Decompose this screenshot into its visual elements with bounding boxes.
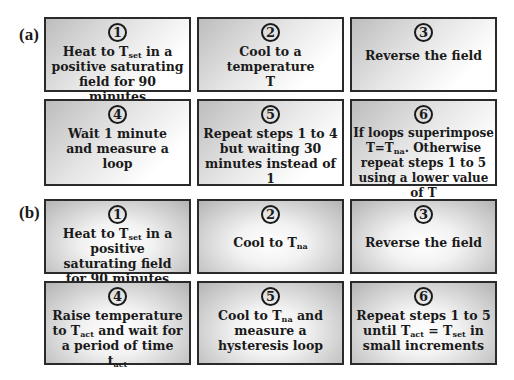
step-text: Reverse the field (361, 235, 486, 250)
step-number-badge: 6 (414, 287, 433, 306)
step-number-badge: 4 (108, 287, 127, 306)
step-number-badge: 6 (414, 105, 433, 124)
step-text: Repeat steps 1 to 5 until Tact = Tset in… (352, 308, 495, 353)
step-text: Cool to Tna and measure a hysteresis loo… (199, 308, 342, 353)
panel-a-step-2: 2 Cool to a temperature T (197, 17, 344, 92)
panel-b-step-3: 3 Reverse the field (350, 199, 497, 274)
panel-b-step-2: 2 Cool to Tna (197, 199, 344, 274)
step-number-badge: 3 (414, 23, 433, 42)
step-number-badge: 2 (261, 205, 280, 224)
step-text: If loops superimpose T=Tna. Otherwise re… (352, 126, 495, 201)
step-number-badge: 5 (261, 105, 280, 124)
panel-a-step-4: 4 Wait 1 minute and measure a loop (44, 99, 191, 186)
step-text: Heat to Tset in a positive saturating fi… (46, 44, 189, 104)
panel-a-step-3: 3 Reverse the field (350, 17, 497, 92)
step-number-badge: 3 (414, 205, 433, 224)
panel-a-step-1: 1 Heat to Tset in a positive saturating … (44, 17, 191, 92)
step-number-badge: 4 (108, 105, 127, 124)
panel-a-step-6: 6 If loops superimpose T=Tna. Otherwise … (350, 99, 497, 186)
panel-a-label: (a) (19, 25, 39, 45)
step-text: Cool to Tna (229, 235, 312, 250)
step-text: Wait 1 minute and measure a loop (46, 126, 189, 171)
step-text: Reverse the field (361, 48, 486, 63)
panel-b-step-4: 4 Raise temperature to Tact and wait for… (44, 281, 191, 365)
panel-b-step-5: 5 Cool to Tna and measure a hysteresis l… (197, 281, 344, 365)
step-text: Raise temperature to Tact and wait for a… (46, 308, 189, 368)
step-number-badge: 2 (261, 23, 280, 42)
panel-b-step-1: 1 Heat to Tset in a positive saturating … (44, 199, 191, 274)
step-text: Repeat steps 1 to 4 but waiting 30 minut… (199, 126, 342, 186)
panel-b-step-6: 6 Repeat steps 1 to 5 until Tact = Tset … (350, 281, 497, 365)
step-text: Heat to Tset in a positive saturating fi… (46, 226, 189, 286)
step-text: Cool to a temperature T (199, 44, 343, 89)
panel-a-step-5: 5 Repeat steps 1 to 4 but waiting 30 min… (197, 99, 344, 186)
panel-b-label: (b) (19, 203, 40, 223)
step-number-badge: 1 (108, 205, 127, 224)
step-number-badge: 1 (108, 23, 127, 42)
step-number-badge: 5 (261, 287, 280, 306)
